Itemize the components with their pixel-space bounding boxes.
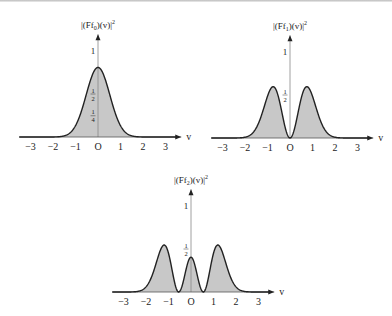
y-axis-arrow-icon — [96, 34, 101, 40]
x-axis-label: v — [378, 132, 383, 143]
x-axis-label: v — [186, 131, 191, 142]
y-axis-title: |(Ff1)(v)|2 — [273, 20, 307, 32]
x-tick-label: −3 — [217, 142, 228, 153]
x-tick-label: 3 — [163, 141, 168, 152]
x-tick-label: 1 — [211, 296, 216, 307]
y-tick-numerator: 1 — [184, 242, 187, 249]
x-tick-label: 2 — [333, 142, 338, 153]
y-tick-denominator: 2 — [283, 96, 286, 103]
x-tick-label: 3 — [355, 142, 360, 153]
x-axis-label: v — [279, 286, 284, 297]
x-tick-label: O — [187, 296, 194, 307]
x-tick-label: 3 — [256, 296, 261, 307]
x-tick-label: −3 — [25, 141, 36, 152]
y-tick-numerator: 1 — [91, 87, 94, 94]
y-axis-arrow-icon — [189, 189, 194, 195]
y-tick-denominator: 2 — [184, 250, 187, 257]
x-tick-label: −1 — [163, 296, 174, 307]
x-tick-label: −1 — [70, 141, 81, 152]
x-tick-label: 1 — [118, 141, 123, 152]
x-tick-label: −2 — [240, 142, 251, 153]
y-tick-denominator: 2 — [91, 95, 94, 102]
x-tick-label: 1 — [310, 142, 315, 153]
chart-panel-2: v−3−2−1O123|(Ff2)(v)|2112 — [112, 174, 284, 307]
x-tick-label: 2 — [234, 296, 239, 307]
chart-panel-1: v−3−2−1O123|(Ff1)(v)|2112 — [211, 20, 383, 153]
x-tick-label: 2 — [141, 141, 146, 152]
x-tick-label: −3 — [118, 296, 129, 307]
y-axis-title: |(Ff0)(v)|2 — [81, 19, 115, 31]
x-tick-label: −2 — [48, 141, 59, 152]
x-tick-label: O — [94, 141, 101, 152]
y-tick-numerator: 1 — [283, 88, 286, 95]
chart-canvas: v−3−2−1O123|(Ff0)(v)|211214v−3−2−1O123|(… — [0, 0, 392, 316]
y-tick-numerator: 1 — [91, 108, 94, 115]
y-tick-label: 1 — [283, 47, 288, 57]
y-axis-title: |(Ff2)(v)|2 — [174, 174, 208, 186]
x-tick-label: O — [286, 142, 293, 153]
y-tick-label: 1 — [184, 201, 189, 211]
chart-panel-0: v−3−2−1O123|(Ff0)(v)|211214 — [19, 19, 191, 152]
x-tick-label: −1 — [262, 142, 273, 153]
x-tick-label: −2 — [141, 296, 152, 307]
y-axis-arrow-icon — [288, 35, 293, 41]
y-tick-label: 1 — [91, 46, 96, 56]
